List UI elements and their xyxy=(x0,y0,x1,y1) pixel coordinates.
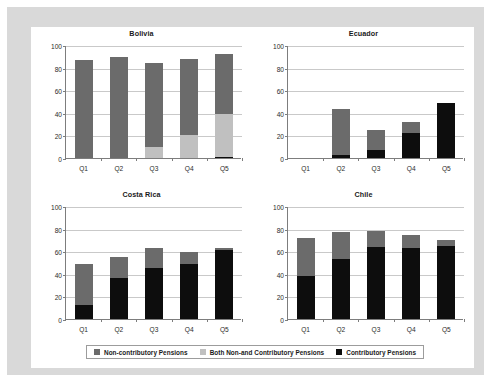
x-tick-label: Q4 xyxy=(185,326,194,333)
x-tick-mark xyxy=(207,319,208,322)
bar-segment[interactable] xyxy=(180,135,198,158)
bar-segment[interactable] xyxy=(402,122,420,133)
x-tick-label: Q1 xyxy=(79,326,88,333)
y-tick-mark xyxy=(285,69,288,70)
x-tick-label: Q5 xyxy=(220,326,229,333)
chart-legend: Non-contributory PensionsBoth Non-and Co… xyxy=(86,345,424,359)
legend-entry: Both Non-and Contributory Pensions xyxy=(200,349,325,356)
bar-stack[interactable] xyxy=(110,57,128,158)
bar-segment[interactable] xyxy=(332,109,350,154)
bar-stack[interactable] xyxy=(215,54,233,158)
bar-segment[interactable] xyxy=(145,248,163,268)
bar-segment[interactable] xyxy=(110,257,128,278)
legend-label: Both Non-and Contributory Pensions xyxy=(210,349,325,356)
bar-stack[interactable] xyxy=(437,103,455,158)
bar-segment[interactable] xyxy=(215,114,233,157)
bar-stack[interactable] xyxy=(110,257,128,319)
bar-stack[interactable] xyxy=(437,240,455,319)
bar-stack[interactable] xyxy=(180,59,198,158)
y-tick-mark xyxy=(285,252,288,253)
y-tick-mark xyxy=(63,46,66,47)
y-tick-mark xyxy=(285,275,288,276)
x-tick-label: Q5 xyxy=(442,165,451,172)
bar-segment[interactable] xyxy=(402,235,420,247)
bar-segment[interactable] xyxy=(332,232,350,259)
x-tick-label: Q3 xyxy=(150,326,159,333)
y-gridline xyxy=(288,69,464,70)
bar-segment[interactable] xyxy=(297,238,315,276)
bar-stack[interactable] xyxy=(145,63,163,158)
x-tick-mark xyxy=(172,319,173,322)
x-tick-label: Q2 xyxy=(336,165,345,172)
panel-title: Costa Rica xyxy=(31,190,252,199)
legend-entry: Contributory Pensions xyxy=(336,349,416,356)
y-tick-label: 20 xyxy=(277,133,284,140)
x-tick-mark xyxy=(101,158,102,161)
bar-segment[interactable] xyxy=(215,250,233,319)
y-gridline xyxy=(288,46,464,47)
bar-segment[interactable] xyxy=(437,240,455,246)
bar-segment[interactable] xyxy=(180,264,198,319)
bar-segment[interactable] xyxy=(75,305,93,319)
bar-segment[interactable] xyxy=(180,252,198,263)
x-tick-label: Q4 xyxy=(407,326,416,333)
y-tick-label: 40 xyxy=(55,271,62,278)
bar-segment[interactable] xyxy=(215,157,233,158)
legend-entry: Non-contributory Pensions xyxy=(94,349,188,356)
bar-stack[interactable] xyxy=(75,264,93,319)
y-tick-mark xyxy=(63,275,66,276)
bar-segment[interactable] xyxy=(75,60,93,158)
x-tick-mark xyxy=(394,158,395,161)
bar-segment[interactable] xyxy=(145,268,163,319)
y-tick-mark xyxy=(285,207,288,208)
bar-segment[interactable] xyxy=(367,130,385,150)
legend-label: Non-contributory Pensions xyxy=(104,349,188,356)
bar-segment[interactable] xyxy=(437,246,455,319)
y-tick-mark xyxy=(63,207,66,208)
bar-segment[interactable] xyxy=(145,147,163,158)
bar-segment[interactable] xyxy=(215,248,233,250)
bar-stack[interactable] xyxy=(332,232,350,319)
x-tick-label: Q3 xyxy=(372,326,381,333)
y-gridline xyxy=(66,230,242,231)
y-tick-mark xyxy=(63,320,66,321)
bar-stack[interactable] xyxy=(402,122,420,158)
bar-stack[interactable] xyxy=(215,248,233,319)
x-tick-label: Q5 xyxy=(220,165,229,172)
bar-segment[interactable] xyxy=(367,150,385,158)
chart-panel-chile: Chile 020406080100Q1Q2Q3Q4Q5 xyxy=(253,190,474,345)
plot-area: 020406080100Q1Q2Q3Q4Q5 xyxy=(287,46,463,159)
bar-segment[interactable] xyxy=(332,259,350,319)
legend-swatch-icon xyxy=(94,349,100,355)
x-tick-mark xyxy=(429,158,430,161)
bar-segment[interactable] xyxy=(110,278,128,319)
bar-segment[interactable] xyxy=(110,57,128,158)
x-tick-mark xyxy=(358,158,359,161)
y-tick-label: 40 xyxy=(277,271,284,278)
bar-segment[interactable] xyxy=(367,231,385,247)
bar-segment[interactable] xyxy=(402,133,420,158)
y-tick-mark xyxy=(285,320,288,321)
bar-segment[interactable] xyxy=(75,264,93,306)
y-tick-label: 20 xyxy=(55,133,62,140)
legend-label: Contributory Pensions xyxy=(346,349,416,356)
bar-segment[interactable] xyxy=(297,276,315,319)
bar-segment[interactable] xyxy=(180,59,198,136)
bar-stack[interactable] xyxy=(145,248,163,319)
bar-segment[interactable] xyxy=(367,247,385,319)
bar-segment[interactable] xyxy=(145,63,163,147)
bar-segment[interactable] xyxy=(215,54,233,114)
bar-stack[interactable] xyxy=(75,60,93,158)
bar-stack[interactable] xyxy=(367,231,385,319)
bar-stack[interactable] xyxy=(367,130,385,158)
bar-segment[interactable] xyxy=(332,155,350,158)
x-tick-mark xyxy=(101,319,102,322)
y-tick-mark xyxy=(63,114,66,115)
bar-segment[interactable] xyxy=(437,103,455,158)
x-tick-label: Q3 xyxy=(372,165,381,172)
bar-stack[interactable] xyxy=(332,109,350,158)
bar-stack[interactable] xyxy=(402,235,420,319)
bar-stack[interactable] xyxy=(297,238,315,319)
bar-segment[interactable] xyxy=(402,248,420,319)
bar-stack[interactable] xyxy=(180,252,198,319)
